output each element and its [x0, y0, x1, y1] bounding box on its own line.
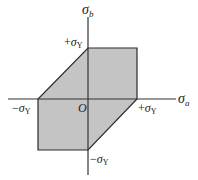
tick-label-pos-y: +σY: [64, 35, 83, 50]
tick-label-neg-x: −σY: [12, 101, 31, 116]
yield-locus-diagram: σa σb O +σY −σY +σY −σY: [0, 0, 198, 180]
tick-label-neg-y: −σY: [90, 152, 109, 167]
tick-label-pos-x: +σY: [138, 101, 157, 116]
axis-label-sigma-b: σb: [82, 2, 94, 19]
origin-label: O: [78, 101, 87, 115]
axis-label-sigma-a: σa: [178, 91, 190, 108]
